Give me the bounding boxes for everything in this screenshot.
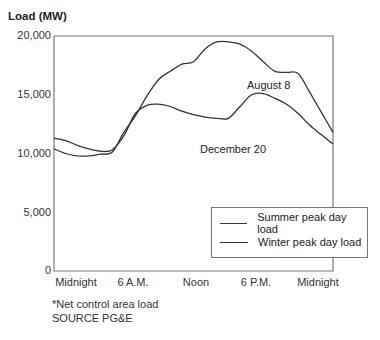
- legend-item-summer: Summer peak day load: [220, 216, 367, 230]
- x-tick-6pm: 6 P.M.: [241, 276, 271, 288]
- winter-line-swatch: [220, 242, 248, 243]
- legend-label-winter: Winter peak day load: [258, 236, 361, 248]
- legend-label-summer: Summer peak day load: [257, 211, 367, 235]
- legend-item-winter: Winter peak day load: [220, 235, 361, 249]
- annotation-december-20: December 20: [200, 143, 266, 155]
- chart-plot: [0, 0, 380, 340]
- footnote: *Net control area load: [52, 298, 158, 310]
- legend: Summer peak day load Winter peak day loa…: [211, 207, 368, 258]
- summer-series-line: [54, 41, 333, 156]
- x-tick-midnight-end: Midnight: [297, 276, 339, 288]
- x-tick-6am: 6 A.M.: [117, 276, 148, 288]
- winter-series-line: [54, 93, 333, 151]
- x-tick-noon: Noon: [183, 276, 209, 288]
- source-note: SOURCE PG&E: [52, 312, 133, 324]
- annotation-august-8: August 8: [247, 79, 290, 91]
- x-tick-midnight-start: Midnight: [55, 276, 97, 288]
- summer-line-swatch: [220, 223, 247, 224]
